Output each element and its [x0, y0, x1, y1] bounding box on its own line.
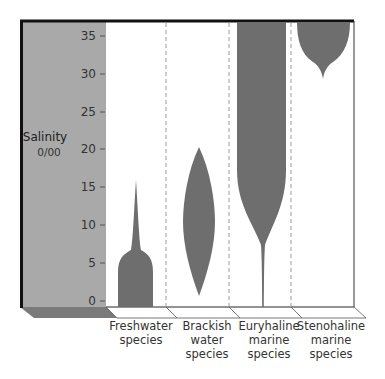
y-tick-label: 35 [81, 29, 96, 43]
y-tick-label: 15 [81, 180, 96, 194]
y-tick-label: 25 [81, 105, 96, 119]
svg-text:Brackish: Brackish [182, 319, 231, 333]
y-axis-title: Salinity [23, 130, 67, 144]
svg-text:marine: marine [249, 333, 290, 347]
y-tick-label: 0 [88, 294, 96, 308]
y-tick-label: 30 [81, 67, 96, 81]
plot-floor [106, 307, 366, 318]
category-label-stenohaline: Stenohaline marine species [297, 319, 365, 361]
category-label-euryhaline: Euryhaline marine species [238, 319, 299, 361]
svg-text:Freshwater: Freshwater [109, 319, 173, 333]
svg-text:Euryhaline: Euryhaline [238, 319, 299, 333]
svg-text:species: species [120, 333, 163, 347]
category-label-freshwater: Freshwater species [109, 319, 173, 347]
svg-text:species: species [248, 347, 291, 361]
y-tick-label: 10 [81, 218, 96, 232]
y-tick-label: 20 [81, 142, 96, 156]
svg-text:species: species [310, 347, 353, 361]
y-axis-unit: 0/00 [37, 146, 61, 158]
svg-text:marine: marine [311, 333, 352, 347]
y-tick-label: 5 [88, 256, 96, 270]
svg-text:Stenohaline: Stenohaline [297, 319, 365, 333]
axis-panel-floor [20, 307, 117, 318]
svg-text:species: species [186, 347, 229, 361]
svg-text:water: water [191, 333, 224, 347]
category-label-brackish: Brackish water species [182, 319, 231, 361]
salinity-tolerance-chart: 35 30 25 20 15 10 5 0 Salinity 0/00 Fres… [0, 0, 385, 379]
